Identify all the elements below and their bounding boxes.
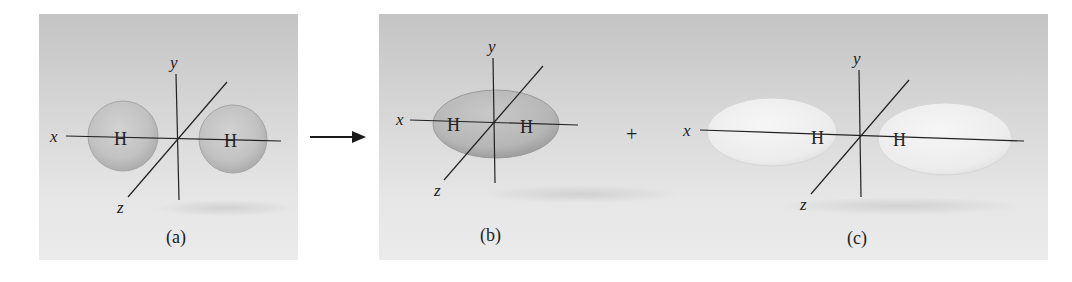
plus-sign: + xyxy=(626,123,637,145)
h-atom-label: H xyxy=(893,130,906,150)
y-axis-label: y xyxy=(486,37,496,56)
h-atom-label: H xyxy=(811,128,824,148)
y-axis-line xyxy=(859,70,861,197)
x-axis-label: x xyxy=(49,127,58,146)
h-atom-label: H xyxy=(224,131,237,151)
h-atom-label: H xyxy=(447,115,460,135)
h-atom-label: H xyxy=(520,117,533,137)
reaction-arrow-icon xyxy=(310,131,366,143)
y-axis-label: y xyxy=(168,53,178,72)
z-axis-label: z xyxy=(433,181,441,200)
panel-caption-b: (b) xyxy=(480,225,501,246)
orbital-diagram: x y z H H (a) x y z H H (b) + x y z H xyxy=(0,0,1072,282)
panel-a-diagram: x y z H H (a) xyxy=(49,53,295,248)
x-axis-label: x xyxy=(395,110,404,129)
panel-caption-a: (a) xyxy=(166,227,186,248)
h-atom-label: H xyxy=(114,129,127,149)
y-axis-line xyxy=(176,74,179,200)
z-axis-label: z xyxy=(799,195,807,214)
y-axis-label: y xyxy=(851,49,861,68)
panel-c-diagram: x y z H H (c) xyxy=(682,49,1024,249)
x-axis-label: x xyxy=(682,121,691,140)
z-axis-label: z xyxy=(116,198,124,217)
panel-caption-c: (c) xyxy=(847,228,867,249)
